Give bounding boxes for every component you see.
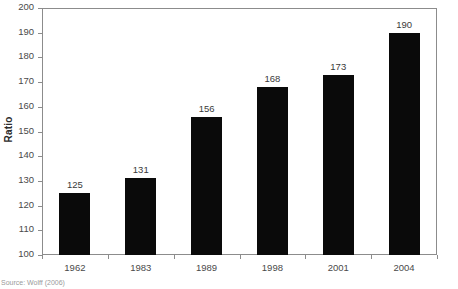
y-axis-tick-label: 110 bbox=[19, 223, 34, 234]
source-note: Source: Wolff (2006) bbox=[1, 279, 65, 286]
y-axis-tick-label: 150 bbox=[18, 125, 34, 136]
bar bbox=[59, 193, 90, 255]
bar-value-label: 131 bbox=[121, 164, 161, 175]
plot-area bbox=[42, 8, 437, 255]
y-axis-tick-label: 170 bbox=[18, 75, 34, 86]
y-axis-tick-label: 140 bbox=[18, 149, 34, 160]
y-axis-tick-label: 200 bbox=[18, 1, 34, 12]
x-axis-tick-mark bbox=[305, 255, 306, 259]
x-axis-tick-mark bbox=[42, 255, 43, 259]
bar-value-label: 156 bbox=[187, 103, 227, 114]
x-axis-category-label: 2004 bbox=[379, 262, 429, 273]
x-axis-category-label: 1962 bbox=[50, 262, 100, 273]
y-axis-tick-label: 180 bbox=[18, 50, 34, 61]
bar-chart-figure: Ratio 100110120130140150160170180190200 … bbox=[0, 0, 458, 289]
x-axis-tick-mark bbox=[240, 255, 241, 259]
y-axis-tick-label: 130 bbox=[18, 174, 34, 185]
x-axis-category-label: 1998 bbox=[247, 262, 297, 273]
x-axis-tick-mark bbox=[108, 255, 109, 259]
y-axis-title: Ratio bbox=[0, 0, 16, 258]
bar bbox=[257, 87, 288, 255]
bar-value-label: 168 bbox=[252, 73, 292, 84]
x-axis-tick-mark bbox=[371, 255, 372, 259]
bar bbox=[323, 75, 354, 255]
bar bbox=[389, 33, 420, 255]
x-axis-category-label: 1983 bbox=[116, 262, 166, 273]
bar-value-label: 125 bbox=[55, 179, 95, 190]
x-axis-tick-mark bbox=[174, 255, 175, 259]
x-axis-category-label: 1989 bbox=[182, 262, 232, 273]
bar-value-label: 190 bbox=[384, 19, 424, 30]
y-axis-tick-label: 160 bbox=[18, 100, 34, 111]
y-axis-tick-label: 190 bbox=[18, 26, 34, 37]
x-axis-tick-mark bbox=[437, 255, 438, 259]
bar bbox=[125, 178, 156, 255]
bar bbox=[191, 117, 222, 255]
y-axis-title-label: Ratio bbox=[3, 116, 14, 142]
bar-value-label: 173 bbox=[318, 61, 358, 72]
x-axis-category-label: 2001 bbox=[313, 262, 363, 273]
y-axis-tick-label: 120 bbox=[18, 199, 34, 210]
y-axis-tick-label: 100 bbox=[18, 248, 34, 259]
